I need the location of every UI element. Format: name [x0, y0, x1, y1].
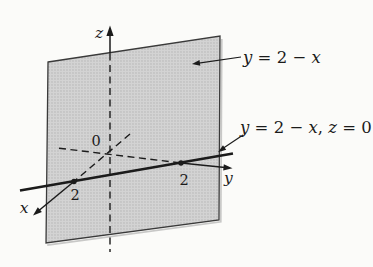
plane-surface [46, 36, 220, 243]
trace-equation-label: y = 2 − x, z = 0 [239, 118, 372, 137]
z-axis-label: z [94, 24, 104, 42]
figure-container: z x y 0 2 2 y = 2 − x y = 2 − x, z = 0 [0, 0, 373, 267]
trace-eq-z: z [327, 118, 337, 137]
plane-diagram-canvas: z x y 0 2 2 y = 2 − x y = 2 − x, z = 0 [0, 0, 373, 267]
y-axis-label: y [223, 169, 233, 187]
x-intercept-label: 2 [70, 187, 79, 203]
plane-eq-x: x [311, 48, 321, 67]
trace-eq-tail: = 0 [337, 118, 372, 137]
trace-eq-comma: , [318, 118, 329, 137]
x-axis-label: x [20, 199, 29, 217]
x-intercept-dot [71, 179, 76, 184]
origin-label: 0 [91, 133, 100, 149]
plane-eq-mid: = 2 − [252, 48, 311, 67]
plane-equation-label: y = 2 − x [242, 48, 321, 67]
y-intercept-label: 2 [179, 172, 188, 188]
trace-eq-mid: = 2 − [249, 118, 308, 137]
y-intercept-dot [178, 160, 183, 165]
